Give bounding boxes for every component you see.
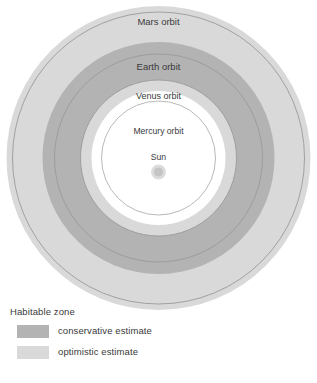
legend-label-conservative: conservative estimate: [58, 325, 152, 337]
solar-system-diagram: Mars orbit Earth orbit Venus orbit Mercu…: [0, 0, 317, 320]
legend: Habitable zone conservative estimate opt…: [10, 306, 310, 365]
legend-item-optimistic: optimistic estimate: [10, 344, 310, 360]
earth-orbit-label: Earth orbit: [137, 61, 181, 72]
legend-item-conservative: conservative estimate: [10, 323, 310, 339]
legend-label-optimistic: optimistic estimate: [58, 346, 138, 358]
mars-orbit-label: Mars orbit: [137, 16, 180, 27]
habitable-zone-figure: Mars orbit Earth orbit Venus orbit Mercu…: [0, 0, 317, 383]
sun-dot-icon: [154, 167, 163, 176]
legend-swatch-optimistic: [17, 346, 49, 359]
venus-orbit-label: Venus orbit: [136, 91, 182, 101]
legend-swatch-conservative: [17, 325, 49, 338]
sun-label: Sun: [151, 152, 167, 162]
mercury-orbit-label: Mercury orbit: [133, 126, 184, 136]
legend-title: Habitable zone: [10, 306, 310, 318]
